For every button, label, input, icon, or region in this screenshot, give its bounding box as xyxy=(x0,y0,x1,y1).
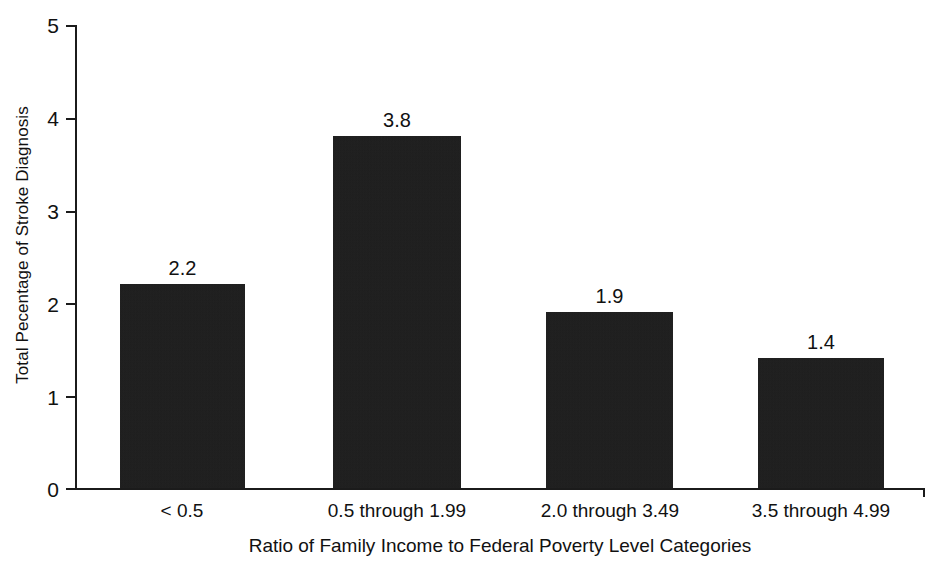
y-tick-label-3: 3 xyxy=(25,201,59,222)
bar-2 xyxy=(546,312,673,488)
bar-value-label-3: 1.4 xyxy=(758,332,884,352)
y-tick-label-4: 4 xyxy=(25,108,59,129)
y-tick-mark-2 xyxy=(66,303,75,305)
x-axis-start-tick xyxy=(66,488,75,490)
x-axis-end-tick xyxy=(923,488,925,497)
bar-value-label-1: 3.8 xyxy=(333,110,461,130)
bar-3 xyxy=(758,358,884,488)
x-tick-label-1: 0.5 through 1.99 xyxy=(307,500,487,523)
y-tick-mark-3 xyxy=(66,211,75,213)
y-tick-label-1: 1 xyxy=(25,387,59,408)
y-tick-label-2: 2 xyxy=(25,294,59,315)
x-axis-line xyxy=(75,488,925,490)
y-axis-title: Total Pecentage of Stroke Diagnosis xyxy=(8,0,38,495)
bar-value-label-2: 1.9 xyxy=(546,286,673,306)
x-tick-label-3: 3.5 through 4.99 xyxy=(731,500,911,523)
bar-0 xyxy=(120,284,245,488)
y-tick-label-5: 5 xyxy=(25,15,59,36)
bar-chart-figure: Total Pecentage of Stroke Diagnosis 5 4 … xyxy=(0,0,947,566)
y-tick-mark-5 xyxy=(66,25,75,27)
x-axis-title: Ratio of Family Income to Federal Povert… xyxy=(75,535,925,557)
bar-value-label-0: 2.2 xyxy=(120,258,245,278)
x-tick-label-2: 2.0 through 3.49 xyxy=(520,500,700,523)
y-tick-mark-1 xyxy=(66,396,75,398)
y-axis-line xyxy=(75,25,77,490)
x-tick-label-0: < 0.5 xyxy=(107,500,257,523)
y-tick-mark-4 xyxy=(66,118,75,120)
bar-1 xyxy=(333,136,461,488)
y-tick-label-0: 0 xyxy=(25,479,59,500)
